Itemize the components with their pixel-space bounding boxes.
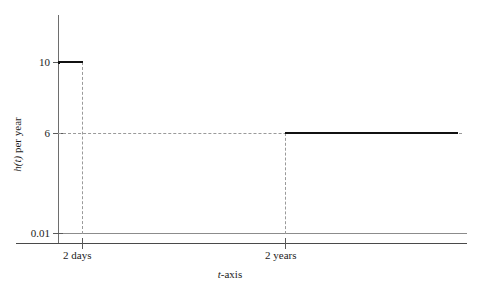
x-axis-line bbox=[16, 243, 467, 244]
x-tick-label-2-years: 2 years bbox=[265, 250, 296, 261]
y-axis-title-rest: per year bbox=[11, 117, 23, 155]
x-tick-label-2-days: 2 days bbox=[63, 250, 91, 261]
guide-line-2-days bbox=[82, 62, 83, 234]
guide-line-2-years bbox=[285, 133, 286, 234]
x-axis-title-rest: -axis bbox=[221, 268, 242, 280]
step-segment-level-6 bbox=[285, 132, 458, 134]
step-riser-level-10 bbox=[58, 61, 60, 64]
x-tick-mark-2-years bbox=[285, 238, 286, 249]
x-tick-mark-2-days bbox=[82, 238, 83, 249]
y-tick-label-0-01: 0.01 bbox=[6, 228, 50, 239]
hazard-step-chart: 10 6 0.01 2 days 2 years h(t) per year t… bbox=[0, 0, 483, 292]
baseline-at-0-01 bbox=[58, 233, 467, 234]
y-axis-title-math: h(t) bbox=[11, 156, 23, 172]
y-axis-title: h(t) per year bbox=[12, 100, 23, 190]
y-tick-label-10: 10 bbox=[12, 57, 50, 68]
y-axis-line bbox=[58, 15, 59, 244]
x-axis-title: t-axis bbox=[160, 269, 300, 280]
y-tick-mark-0-01 bbox=[53, 233, 63, 234]
step-segment-level-10 bbox=[58, 61, 83, 63]
